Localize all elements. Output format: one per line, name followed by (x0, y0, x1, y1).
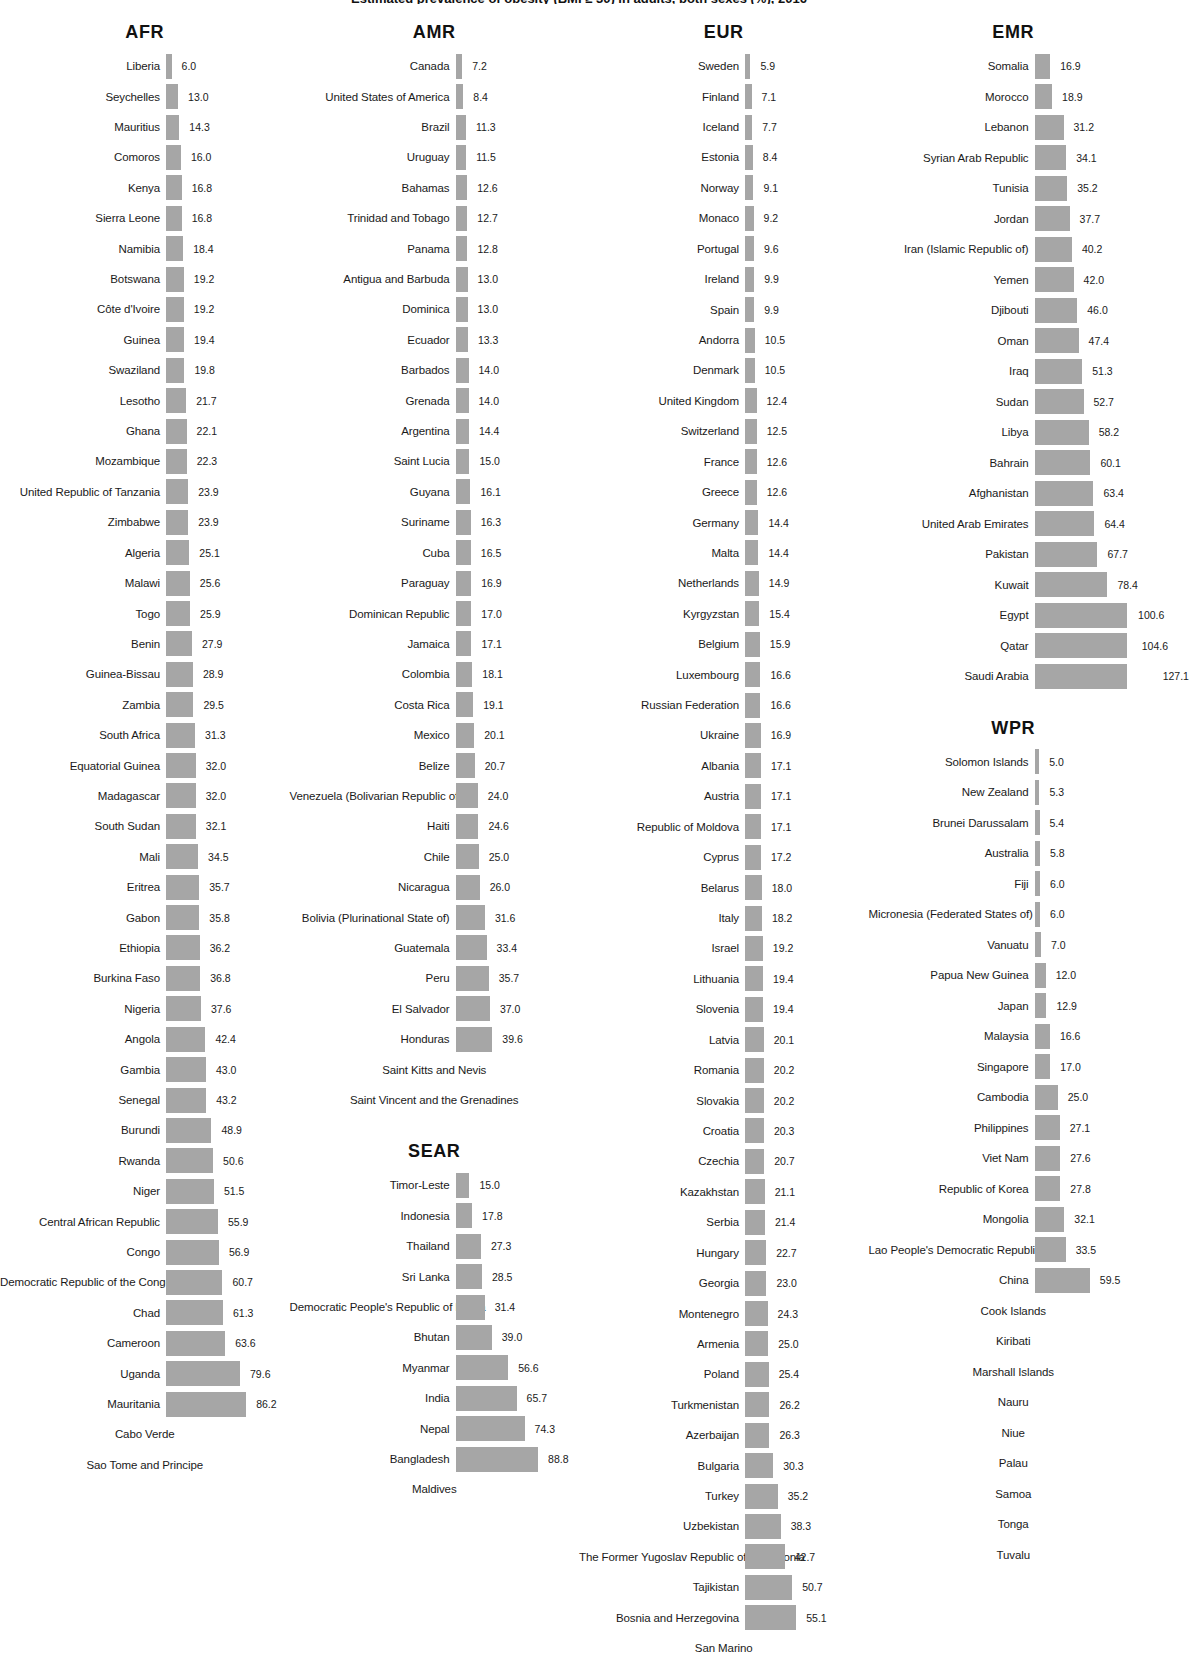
value-container: 14.4 (837, 510, 869, 536)
bar-value: 8.4 (758, 151, 778, 163)
value-container: 6.0 (258, 53, 290, 79)
bar-value: 50.7 (797, 1581, 822, 1593)
value-container: 16.8 (258, 175, 290, 201)
value-container: 21.7 (258, 388, 290, 414)
bar-value: 11.3 (471, 121, 496, 133)
bar-value: 16.1 (475, 486, 500, 498)
row-label: Japan (869, 1000, 1035, 1012)
chart-row: Guatemala33.4 (290, 933, 580, 963)
bar (166, 783, 196, 808)
bar (745, 1453, 773, 1478)
bar-value: 60.1 (1095, 457, 1120, 469)
row-label: Madagascar (0, 790, 166, 802)
row-label: Democratic People's Republic of Korea (290, 1301, 456, 1313)
bar (456, 571, 472, 596)
bar-value: 23.9 (193, 516, 218, 528)
value-container: 6.0 (1127, 871, 1159, 897)
value-container: 22.7 (837, 1240, 869, 1266)
row-label: Spain (579, 304, 745, 316)
value-container: 19.1 (548, 692, 580, 718)
bar (166, 1088, 206, 1113)
value-container: 36.2 (258, 935, 290, 961)
bar (745, 1484, 778, 1509)
chart-row: Comoros16.0 (0, 142, 290, 172)
bar (1035, 1146, 1061, 1171)
bar (166, 1209, 218, 1234)
chart-row: Angola42.4 (0, 1024, 290, 1054)
bar-value: 8.4 (468, 91, 488, 103)
bar (166, 388, 186, 413)
chart-row: Swaziland19.8 (0, 355, 290, 385)
row-label: Tonga (869, 1518, 1159, 1530)
chart-row: Mauritania86.2 (0, 1389, 290, 1419)
bar-value: 100.6 (1133, 609, 1164, 621)
value-container: 26.2 (837, 1392, 869, 1418)
chart-row: Papua New Guinea12.0 (869, 960, 1159, 991)
row-label: Syrian Arab Republic (869, 152, 1035, 164)
bar-value: 7.2 (467, 60, 487, 72)
chart-row: South Sudan32.1 (0, 811, 290, 841)
value-container: 20.1 (548, 722, 580, 748)
chart-row: Denmark10.5 (579, 355, 869, 385)
value-container: 24.3 (837, 1301, 869, 1327)
bar-value: 21.4 (770, 1216, 795, 1228)
bar-value: 19.2 (189, 273, 214, 285)
row-label: Chile (290, 851, 456, 863)
bar-value: 12.5 (762, 425, 787, 437)
bar (745, 997, 763, 1022)
value-container: 30.3 (837, 1453, 869, 1479)
group-header-eur: EUR (579, 22, 869, 43)
bar-value: 28.5 (487, 1271, 512, 1283)
value-container: 16.8 (258, 205, 290, 231)
value-container: 37.0 (548, 996, 580, 1022)
bar-container (745, 479, 837, 505)
bar (745, 936, 763, 961)
value-container: 27.1 (1127, 1115, 1159, 1141)
row-label: Mauritius (0, 121, 166, 133)
bar-container (456, 236, 548, 262)
bar-container (456, 296, 548, 322)
value-container: 25.1 (258, 540, 290, 566)
chart-row: Burundi48.9 (0, 1115, 290, 1145)
row-label: Philippines (869, 1122, 1035, 1134)
chart-row: Romania20.2 (579, 1055, 869, 1085)
chart-row: Haiti24.6 (290, 811, 580, 841)
row-label: Malawi (0, 577, 166, 589)
bar-value: 25.0 (773, 1338, 798, 1350)
row-label: Rwanda (0, 1155, 166, 1167)
row-label: Armenia (579, 1338, 745, 1350)
row-label: Tajikistan (579, 1581, 745, 1593)
row-label: Namibia (0, 243, 166, 255)
row-label: Botswana (0, 273, 166, 285)
bar (166, 206, 182, 231)
bar (166, 601, 190, 626)
value-container: 31.6 (548, 905, 580, 931)
bar-value: 12.4 (762, 395, 787, 407)
bar-value: 104.6 (1137, 640, 1168, 652)
value-container: 13.0 (258, 84, 290, 110)
bar-value: 5.8 (1045, 847, 1065, 859)
bar (745, 480, 757, 505)
chart-row: Australia5.8 (869, 838, 1159, 869)
bar (166, 479, 188, 504)
bar (745, 297, 754, 322)
bar-value: 16.5 (476, 547, 501, 559)
row-label: Portugal (579, 243, 745, 255)
bar (1035, 993, 1047, 1018)
bar-value: 35.8 (204, 912, 229, 924)
bar-value: 47.4 (1084, 335, 1109, 347)
value-container: 46.0 (1127, 297, 1159, 323)
value-container: 32.1 (258, 813, 290, 839)
bar (456, 175, 468, 200)
chart-row: Turkmenistan26.2 (579, 1390, 869, 1420)
bar (456, 1234, 481, 1259)
bar-value: 19.1 (478, 699, 503, 711)
row-label: Suriname (290, 516, 456, 528)
bar (166, 753, 196, 778)
chart-row: Austria17.1 (579, 781, 869, 811)
chart-row: Cameroon63.6 (0, 1328, 290, 1358)
row-label: Belarus (579, 882, 745, 894)
chart-columns: AFRLiberia6.0Seychelles13.0Mauritius14.3… (0, 0, 1158, 1663)
bar-value: 17.0 (1055, 1061, 1080, 1073)
value-container: 35.2 (1127, 175, 1159, 201)
